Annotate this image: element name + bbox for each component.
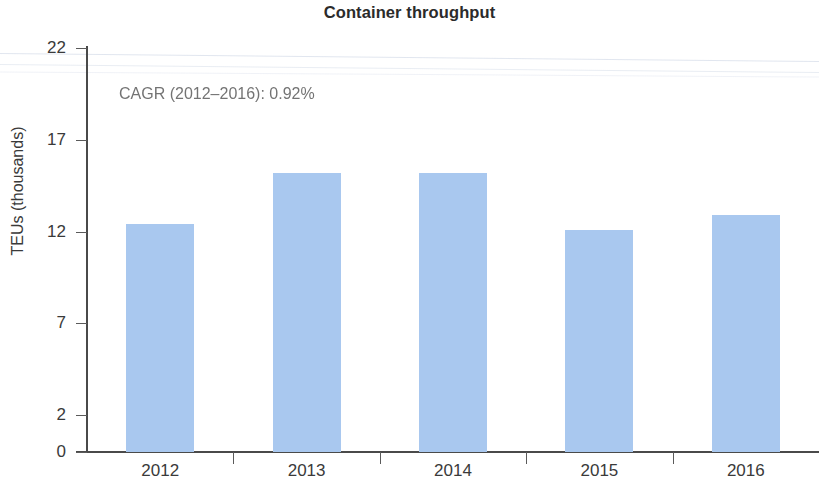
bar-2015 <box>565 230 633 452</box>
x-axis-tick-mark <box>233 452 234 464</box>
y-axis-tick-mark <box>76 415 87 416</box>
y-axis-tick-mark <box>76 48 87 49</box>
y-axis-tick-label: 7 <box>8 314 66 331</box>
y-axis-tick-label: 0 <box>8 443 66 460</box>
y-axis-tick-mark <box>76 323 87 324</box>
x-axis-tick-mark <box>380 452 381 464</box>
bar-2013 <box>273 173 341 452</box>
chart-title: Container throughput <box>0 3 819 22</box>
bar-2016 <box>712 215 780 452</box>
bar-2014 <box>419 173 487 452</box>
chart-figure: Container throughput TEUs (thousands) 22… <box>0 0 819 487</box>
y-axis-tick-mark <box>76 232 87 233</box>
y-axis-tick-label: 12 <box>8 223 66 240</box>
x-axis-tick-label: 2015 <box>539 462 659 479</box>
bar-2012 <box>126 224 194 452</box>
y-axis-title: TEUs (thousands) <box>9 91 27 291</box>
y-axis-tick-mark <box>76 452 87 453</box>
x-axis-tick-mark <box>673 452 674 464</box>
y-axis-tick-mark <box>76 140 87 141</box>
y-axis-tick-label: 17 <box>8 131 66 148</box>
y-axis-tick-label: 2 <box>8 406 66 423</box>
x-axis-tick-label: 2016 <box>686 462 806 479</box>
x-axis-tick-label: 2012 <box>100 462 220 479</box>
x-axis-tick-mark <box>526 452 527 464</box>
plot-area <box>87 48 819 452</box>
x-axis-tick-label: 2013 <box>247 462 367 479</box>
x-axis-tick-label: 2014 <box>393 462 513 479</box>
cagr-annotation: CAGR (2012–2016): 0.92% <box>119 85 315 103</box>
y-axis-tick-label: 22 <box>8 39 66 56</box>
